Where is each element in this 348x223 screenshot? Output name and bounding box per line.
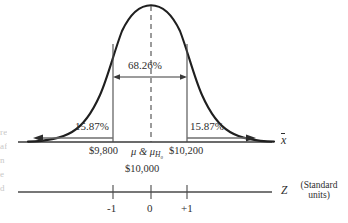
normal-distribution-figure: 68.26% 15.87% 15.87% $9,800 μ & μH₀ $10,… <box>0 0 348 223</box>
right-tail-arrow <box>187 135 256 142</box>
x-bar-axis-label-text: x <box>281 133 286 147</box>
z-tick-label-plus-one: +1 <box>181 203 193 214</box>
central-interval-percent-label: 68.26% <box>128 60 162 71</box>
page-edge-text-fragments: r e a f n e d <box>0 126 7 196</box>
z-axis-units-note: (Standard units) <box>290 181 348 201</box>
right-tail-percent-label: 15.87% <box>190 121 224 132</box>
x-bar-axis-label: x <box>281 134 286 147</box>
lower-bound-value-label: $9,800 <box>89 146 118 157</box>
upper-bound-value-label: $10,200 <box>169 146 203 157</box>
central-interval-arrow <box>113 74 187 80</box>
mean-symbol-text: μ & μ <box>131 146 155 157</box>
z-axis-label: Z <box>281 185 287 197</box>
z-axis-units-line-2: units) <box>290 191 348 201</box>
z-tick-label-minus-one: -1 <box>107 203 116 214</box>
mean-symbol-subscript: H₀ <box>155 150 163 159</box>
z-tick-label-zero: 0 <box>147 203 153 214</box>
mean-symbol-label: μ & μH₀ <box>131 147 163 159</box>
mean-value-label: $10,000 <box>125 164 159 175</box>
left-tail-percent-label: 15.87% <box>75 121 109 132</box>
